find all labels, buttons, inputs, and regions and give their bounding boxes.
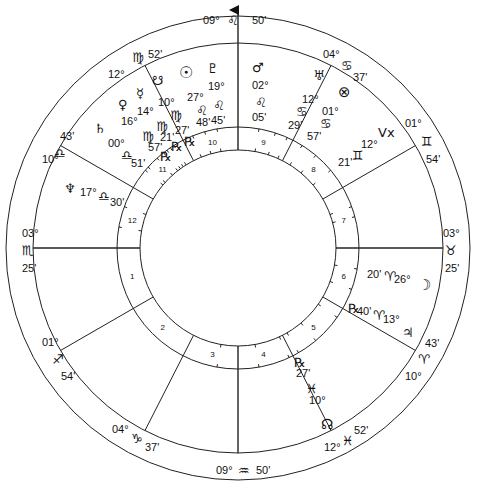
cusp-9-degree: 04° bbox=[323, 48, 340, 60]
dsc-sign-icon: ♉ bbox=[445, 243, 457, 258]
house-number-8: 8 bbox=[311, 165, 316, 174]
house-number-4: 4 bbox=[261, 350, 266, 359]
vertex-icon: Vx bbox=[378, 125, 395, 140]
moon-icon: ☽ bbox=[418, 276, 431, 294]
house-number-6: 6 bbox=[342, 272, 347, 281]
planet-mars: ♂ 02° ♌ 05' bbox=[252, 60, 269, 123]
degree-tick bbox=[200, 154, 201, 157]
planet-sun: ☉ 27° ♌ 48' bbox=[179, 63, 210, 128]
degree-tick bbox=[268, 152, 269, 155]
degree-tick bbox=[301, 323, 303, 325]
mars-icon: ♂ bbox=[252, 60, 264, 75]
cusp-line-2 bbox=[60, 297, 153, 351]
asc-minutes: 25' bbox=[22, 262, 36, 274]
degree-tick bbox=[119, 227, 122, 228]
cusp-11-degree: 12° bbox=[108, 68, 125, 80]
venus-degree: 16° bbox=[121, 115, 138, 127]
jupiter-degree: 13° bbox=[383, 313, 400, 325]
degree-tick bbox=[139, 230, 142, 231]
planet-north-node: ℞ 27' ♓ 10° ☊ bbox=[294, 355, 333, 432]
saturn-minutes: 51' bbox=[131, 157, 145, 169]
degree-tick bbox=[163, 180, 165, 182]
cusp-11-minutes: 52' bbox=[148, 48, 162, 60]
planet-saturn: ♄ 00° ♎ 51' bbox=[94, 121, 145, 169]
degree-tick bbox=[255, 345, 256, 348]
north-node-icon: ☊ bbox=[321, 416, 333, 432]
asc-sign-icon: ♏ bbox=[22, 243, 34, 258]
degree-tick bbox=[314, 338, 316, 340]
pluto-icon: ♇ bbox=[207, 61, 219, 76]
venus-icon: ♀ bbox=[118, 97, 128, 112]
planet-vertex: Vx 12° ♊ 21' bbox=[338, 125, 395, 168]
degree-tick bbox=[301, 171, 303, 173]
moon-minutes: 20' bbox=[367, 268, 381, 280]
degree-tick bbox=[314, 155, 316, 157]
cusp-label-12: 43' ♎ 10° bbox=[42, 130, 74, 165]
house-number-11: 11 bbox=[158, 165, 167, 174]
ic-label: 09° ♒ 50' bbox=[216, 463, 270, 478]
mars-minutes: 05' bbox=[252, 111, 266, 123]
sun-icon: ☉ bbox=[179, 63, 193, 82]
cusp-5-sign-icon: ♓ bbox=[342, 433, 354, 448]
mars-sign-icon: ♌ bbox=[255, 95, 267, 110]
asc-label: 03° ♏ 25' bbox=[22, 227, 39, 274]
mercury-degree: 14° bbox=[137, 105, 154, 117]
house-number-12: 12 bbox=[128, 216, 137, 225]
north-node-degree: 10° bbox=[309, 394, 326, 406]
degree-tick bbox=[278, 156, 279, 159]
degree-tick bbox=[170, 173, 172, 175]
ic-minutes: 50' bbox=[256, 464, 270, 476]
south-node-retrograde-icon: ℞ bbox=[184, 134, 196, 149]
degree-tick bbox=[335, 316, 337, 318]
cusp-6-minutes: 43' bbox=[425, 337, 439, 349]
south-node-icon: ☋ bbox=[152, 73, 164, 88]
degree-tick bbox=[287, 333, 289, 336]
cusp-11-sign-icon: ♍ bbox=[132, 50, 144, 65]
part-of-fortune-icon: ⊗ bbox=[338, 83, 351, 101]
degree-tick bbox=[333, 222, 336, 223]
degree-tick bbox=[205, 132, 206, 135]
degree-tick bbox=[217, 129, 218, 132]
degree-tick bbox=[318, 304, 320, 306]
uranus-minutes: 29' bbox=[288, 119, 302, 131]
degree-tick bbox=[182, 164, 184, 166]
saturn-icon: ♄ bbox=[94, 121, 106, 136]
part-of-fortune-sign-icon: ♋ bbox=[320, 116, 332, 131]
cusp-label-3: 04° ♑ 37' bbox=[112, 423, 159, 453]
north-node-minutes: 27' bbox=[296, 367, 310, 379]
pluto-minutes: 45' bbox=[211, 114, 225, 126]
pluto-degree: 19° bbox=[208, 80, 225, 92]
degree-tick bbox=[179, 166, 181, 168]
degree-tick bbox=[210, 151, 211, 154]
cusp-label-9: 04° ♋ 37' bbox=[323, 48, 367, 83]
cusp-8-minutes: 54' bbox=[426, 153, 440, 165]
house-number-10: 10 bbox=[208, 138, 217, 147]
cusp-5-degree: 12° bbox=[324, 441, 341, 453]
cusp-3-sign-icon: ♑ bbox=[131, 431, 143, 446]
natal-chart-wheel: 123456789101112 09° ♌ 50' 09° ♒ 50' 03° … bbox=[0, 0, 477, 494]
planet-neptune: ♆ 17° ♎ 30' bbox=[64, 181, 124, 208]
degree-tick bbox=[328, 170, 330, 172]
mc-label: 09° ♌ 50' bbox=[203, 13, 266, 28]
south-node-sign-icon: ♍ bbox=[170, 108, 182, 123]
degree-tick bbox=[258, 129, 259, 132]
degree-tick bbox=[301, 145, 303, 148]
degree-tick bbox=[176, 168, 178, 170]
house-number-1: 1 bbox=[130, 272, 135, 281]
house-number-9: 9 bbox=[261, 138, 266, 147]
degree-tick bbox=[220, 345, 221, 348]
degree-tick bbox=[352, 217, 355, 218]
uranus-sign-icon: ♋ bbox=[296, 104, 308, 119]
planet-moon: 20' ♈ 26° ☽ bbox=[367, 268, 431, 294]
mc-sign-icon: ♌ bbox=[227, 13, 239, 28]
mc-minutes: 50' bbox=[252, 14, 266, 26]
jupiter-minutes: 40' bbox=[357, 305, 371, 317]
degree-tick bbox=[148, 167, 150, 169]
neptune-icon: ♆ bbox=[64, 181, 76, 196]
mercury-retrograde-icon: ℞ bbox=[171, 139, 183, 154]
mc-degree: 09° bbox=[203, 14, 220, 26]
part-of-fortune-minutes: 57' bbox=[307, 130, 321, 142]
dsc-label: 03° ♉ 25' bbox=[443, 227, 460, 274]
cusp-line-3 bbox=[145, 335, 194, 430]
jupiter-icon: ♃ bbox=[402, 325, 414, 340]
